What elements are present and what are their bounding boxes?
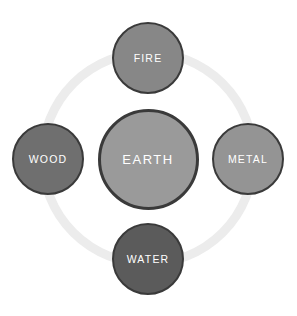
node-wood-label: WOOD — [29, 154, 68, 165]
node-fire-label: FIRE — [134, 53, 163, 64]
node-metal[interactable]: METAL — [212, 123, 284, 195]
five-elements-diagram: FIRE WOOD EARTH METAL WATER — [0, 0, 297, 316]
node-fire[interactable]: FIRE — [112, 22, 184, 94]
node-water-label: WATER — [127, 254, 170, 265]
node-earth-label: EARTH — [122, 153, 173, 166]
node-wood[interactable]: WOOD — [12, 123, 84, 195]
node-earth[interactable]: EARTH — [98, 109, 199, 210]
node-water[interactable]: WATER — [112, 223, 184, 295]
node-metal-label: METAL — [228, 154, 268, 165]
